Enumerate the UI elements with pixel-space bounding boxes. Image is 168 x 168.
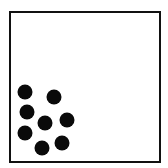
dot (20, 105, 35, 120)
dot (60, 113, 75, 128)
dot (55, 136, 70, 151)
square-frame (9, 11, 161, 163)
dot (18, 126, 33, 141)
dot (18, 85, 33, 100)
dot (47, 90, 62, 105)
dot (35, 141, 50, 156)
dot (38, 116, 53, 131)
